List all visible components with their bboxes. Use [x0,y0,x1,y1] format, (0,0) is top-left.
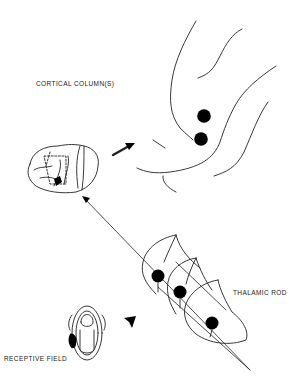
label-receptive-field: RECEPTIVE FIELD [4,355,67,362]
thalamic-neuron-1 [152,270,165,283]
cortex-detail [137,21,276,192]
diagram-canvas: CORTICAL COLUMN(S) THALAMIC ROD RECEPTIV… [0,0,306,384]
thalamic-neuron-3 [206,317,219,330]
marked-region [54,176,62,186]
thalamic-neuron-2 [174,286,187,299]
diagram-svg [0,0,306,384]
cortical-column-dot-1 [197,109,211,123]
arrow-thalamus-to-brain [82,196,250,370]
thalamus [142,235,250,370]
arrow-brain-to-cortex [113,143,135,155]
label-thalamic-rod: THALAMIC ROD [233,289,287,296]
label-cortical-columns: CORTICAL COLUMN(S) [36,80,114,87]
receptive-field-icon [69,306,106,360]
receptive-field-area [69,334,77,349]
arrow-field-to-thalamus [124,316,136,328]
cortical-column-dot-2 [194,132,208,146]
brain-icon [28,145,98,193]
